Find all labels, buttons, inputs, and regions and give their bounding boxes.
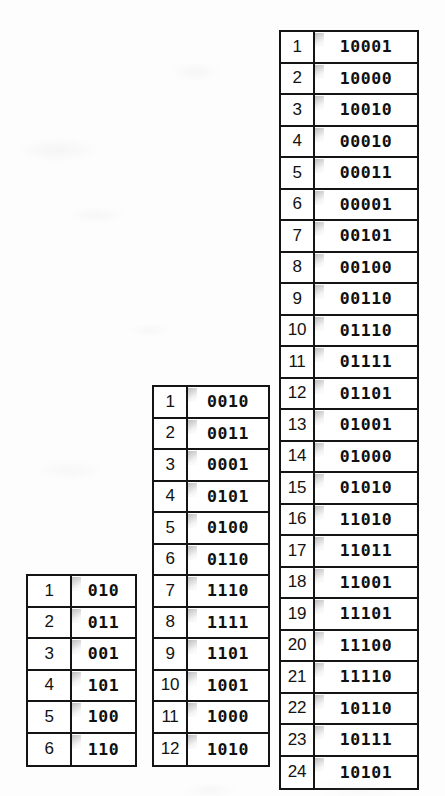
row-index-cell: 13 [281, 410, 315, 440]
row-index-cell: 3 [28, 639, 72, 669]
table-row: 2011 [28, 608, 135, 640]
row-index-cell: 11 [154, 702, 188, 732]
row-index-cell: 9 [281, 284, 315, 314]
code-value-cell: 0010 [188, 387, 268, 417]
table-row: 10010 [154, 387, 268, 419]
row-index-cell: 10 [281, 316, 315, 346]
table-row: 110001 [281, 32, 417, 64]
table-row: 91101 [154, 639, 268, 671]
row-index-cell: 18 [281, 568, 315, 598]
table-row: 3001 [28, 639, 135, 671]
table-row: 1201101 [281, 379, 417, 411]
table-row: 2011100 [281, 631, 417, 663]
table-row: 1911101 [281, 599, 417, 631]
table-row: 1301001 [281, 410, 417, 442]
row-index-cell: 17 [281, 536, 315, 566]
table-row: 111000 [154, 702, 268, 734]
code-value-cell: 0011 [188, 419, 268, 449]
code-value-cell: 101 [72, 671, 135, 701]
row-index-cell: 12 [154, 734, 188, 766]
4-bit-code-table: 1001020011300014010150100601107111081111… [152, 385, 270, 767]
row-index-cell: 6 [28, 734, 72, 766]
row-index-cell: 14 [281, 442, 315, 472]
row-index-cell: 6 [281, 190, 315, 220]
row-index-cell: 11 [281, 347, 315, 377]
table-row: 2210110 [281, 694, 417, 726]
row-index-cell: 19 [281, 599, 315, 629]
code-value-cell: 010 [72, 576, 135, 606]
row-index-cell: 23 [281, 725, 315, 755]
code-value-cell: 00110 [315, 284, 417, 314]
row-index-cell: 2 [28, 608, 72, 638]
row-index-cell: 10 [154, 671, 188, 701]
row-index-cell: 5 [154, 513, 188, 543]
table-row: 81111 [154, 608, 268, 640]
table-row: 4101 [28, 671, 135, 703]
table-row: 60110 [154, 545, 268, 577]
row-index-cell: 4 [28, 671, 72, 701]
table-row: 1501010 [281, 473, 417, 505]
code-value-cell: 11001 [315, 568, 417, 598]
code-value-cell: 1001 [188, 671, 268, 701]
row-index-cell: 7 [281, 221, 315, 251]
code-value-cell: 001 [72, 639, 135, 669]
code-value-cell: 10101 [315, 757, 417, 789]
table-row: 1811001 [281, 568, 417, 600]
code-value-cell: 01010 [315, 473, 417, 503]
code-value-cell: 11110 [315, 662, 417, 692]
code-value-cell: 00011 [315, 158, 417, 188]
row-index-cell: 6 [154, 545, 188, 575]
row-index-cell: 8 [154, 608, 188, 638]
row-index-cell: 22 [281, 694, 315, 724]
code-value-cell: 0100 [188, 513, 268, 543]
code-value-cell: 0101 [188, 482, 268, 512]
code-value-cell: 011 [72, 608, 135, 638]
row-index-cell: 5 [281, 158, 315, 188]
table-row: 500011 [281, 158, 417, 190]
table-row: 30001 [154, 450, 268, 482]
code-value-cell: 11011 [315, 536, 417, 566]
table-row: 1401000 [281, 442, 417, 474]
row-index-cell: 4 [281, 127, 315, 157]
code-value-cell: 1111 [188, 608, 268, 638]
table-row: 71110 [154, 576, 268, 608]
row-index-cell: 12 [281, 379, 315, 409]
table-row: 50100 [154, 513, 268, 545]
table-row: 900110 [281, 284, 417, 316]
code-value-cell: 00100 [315, 253, 417, 283]
code-value-cell: 01110 [315, 316, 417, 346]
code-value-cell: 00101 [315, 221, 417, 251]
table-row: 800100 [281, 253, 417, 285]
code-value-cell: 1101 [188, 639, 268, 669]
code-value-cell: 1110 [188, 576, 268, 606]
code-value-cell: 0001 [188, 450, 268, 480]
table-row: 2310111 [281, 725, 417, 757]
row-index-cell: 16 [281, 505, 315, 535]
table-row: 1611010 [281, 505, 417, 537]
row-index-cell: 15 [281, 473, 315, 503]
code-value-cell: 0110 [188, 545, 268, 575]
code-value-cell: 10001 [315, 32, 417, 62]
code-value-cell: 1000 [188, 702, 268, 732]
code-value-cell: 01001 [315, 410, 417, 440]
table-row: 1010 [28, 576, 135, 608]
code-value-cell: 10010 [315, 95, 417, 125]
5-bit-code-table: 1100012100003100104000105000116000017001… [279, 30, 419, 790]
table-row: 2111110 [281, 662, 417, 694]
code-value-cell: 1010 [188, 734, 268, 766]
code-value-cell: 01000 [315, 442, 417, 472]
code-value-cell: 11100 [315, 631, 417, 661]
code-value-cell: 01101 [315, 379, 417, 409]
row-index-cell: 24 [281, 757, 315, 789]
table-row: 210000 [281, 64, 417, 96]
table-row: 121010 [154, 734, 268, 766]
table-row: 1101111 [281, 347, 417, 379]
code-value-cell: 10111 [315, 725, 417, 755]
row-index-cell: 1 [154, 387, 188, 417]
table-row: 310010 [281, 95, 417, 127]
code-value-cell: 00010 [315, 127, 417, 157]
row-index-cell: 2 [154, 419, 188, 449]
code-value-cell: 11101 [315, 599, 417, 629]
table-row: 1001110 [281, 316, 417, 348]
code-value-cell: 100 [72, 702, 135, 732]
